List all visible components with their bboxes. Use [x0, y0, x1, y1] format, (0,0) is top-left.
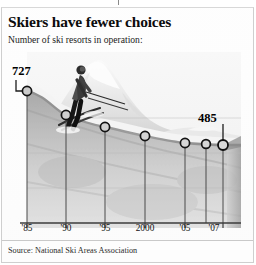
data-marker: [22, 86, 31, 95]
chart-subtitle: Number of ski resorts in operation:: [8, 34, 143, 45]
first-value-label: 727: [12, 64, 31, 79]
chart-svg: [2, 52, 253, 228]
x-tick-label-2000: 2000: [136, 223, 155, 233]
data-marker: [100, 122, 109, 131]
clipped-tick-mark: [118, 0, 119, 5]
page-title: Skiers have fewer choices: [8, 13, 171, 31]
x-tick-label-05: '05: [180, 223, 191, 233]
x-tick-label-07: '07: [209, 223, 220, 233]
clipped-text-sliver: [0, 0, 256, 7]
chart-plot-area: [2, 52, 253, 228]
last-value-label: 485: [198, 111, 217, 126]
x-tick-label-90: '90: [61, 223, 72, 233]
data-marker: [140, 131, 149, 140]
data-marker: [218, 140, 228, 150]
x-tick-label-95: '95: [100, 223, 111, 233]
infographic-page: Skiers have fewer choices Number of ski …: [0, 0, 256, 265]
data-marker: [202, 140, 211, 149]
source-text: Source: National Ski Areas Association: [8, 246, 137, 255]
x-tick-label-85: '85: [22, 223, 33, 233]
data-marker: [61, 110, 70, 119]
x-axis-labels: '85 '90 '95 2000 '05 '07: [2, 223, 253, 241]
chart-card: Skiers have fewer choices Number of ski …: [1, 7, 254, 263]
source-bar: Source: National Ski Areas Association: [2, 240, 253, 262]
data-marker: [180, 138, 189, 147]
